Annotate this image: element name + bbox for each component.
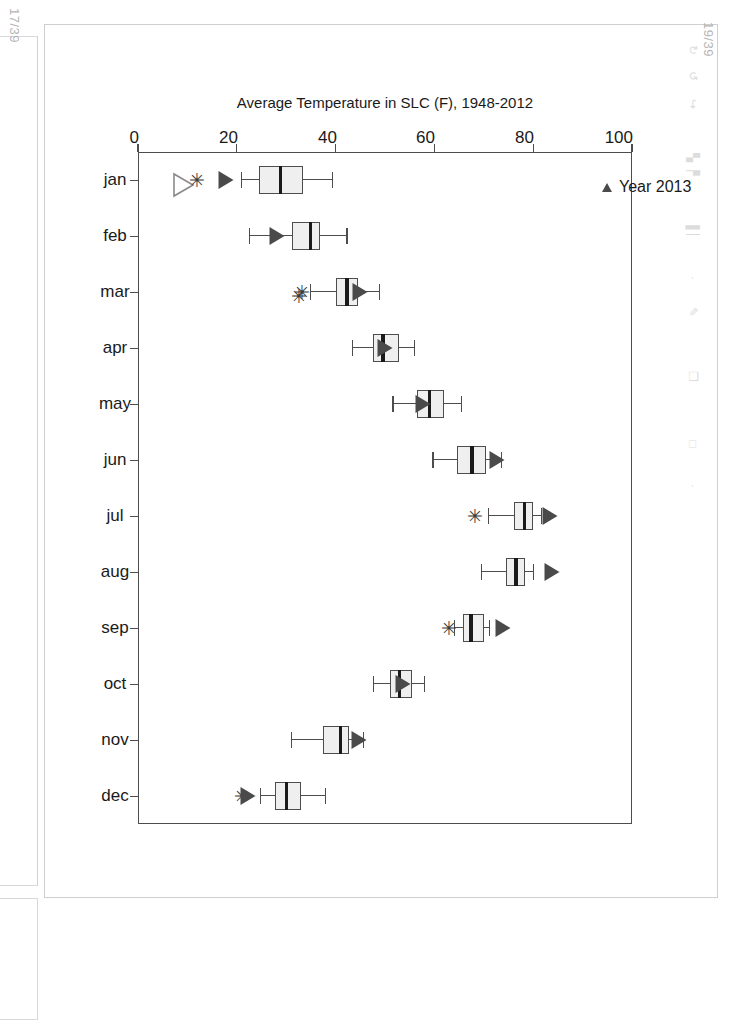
next-page-sliver <box>0 898 38 1020</box>
square-icon: □ <box>687 440 699 447</box>
pen-icon: ✎ <box>687 307 699 317</box>
faint-toolbar-strip: ↻ ↺ ↪ ▚▕▘ ▌▏ · ✎ ❐ □ · <box>676 40 710 510</box>
year-2013-marker <box>241 787 256 805</box>
boxplot-whisker-upper <box>301 795 325 796</box>
redo-icon: ↻ <box>687 45 699 55</box>
dot2-icon: · <box>687 484 699 488</box>
copy-icon: ❐ <box>687 371 699 382</box>
dot-icon: · <box>687 276 699 280</box>
boxplot-cap-upper <box>325 788 326 805</box>
boxplot-box <box>275 782 301 810</box>
boxplot-median <box>285 782 288 810</box>
figure-rotation-wrapper: 020406080100 janfebmaraprmayjunjulaugsep… <box>68 60 658 870</box>
boxplot-cap-lower <box>260 788 261 805</box>
reply-icon: ↪ <box>687 99 699 109</box>
undo-icon: ↺ <box>687 71 699 81</box>
boxplot-figure: 020406080100 janfebmaraprmayjunjulaugsep… <box>68 60 658 870</box>
boxplot-dec: ✳ <box>68 60 658 870</box>
boxplot-whisker-lower <box>261 795 275 796</box>
signal-icon: ▚▕▘ <box>687 153 699 180</box>
page-indicator-left: 17/39 <box>7 8 22 43</box>
bars-icon: ▌▏ <box>687 225 699 243</box>
previous-page-sliver <box>0 36 38 886</box>
